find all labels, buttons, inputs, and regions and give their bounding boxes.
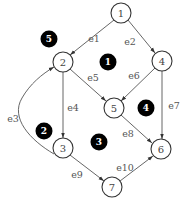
edge-label-e1: e1 xyxy=(88,33,100,44)
face-marker-1: 1 xyxy=(100,54,117,71)
node-6: 6 xyxy=(151,139,171,159)
edge-label-e2: e2 xyxy=(124,36,136,47)
node-label: 7 xyxy=(109,182,115,193)
edge-label-e8: e8 xyxy=(122,128,134,139)
edge-label-e10: e10 xyxy=(116,162,134,173)
face-label: 1 xyxy=(105,57,111,67)
edge-label-e6: e6 xyxy=(128,70,140,81)
node-label: 3 xyxy=(60,143,66,154)
edge-label-e5: e5 xyxy=(87,72,99,83)
edge-label-e4: e4 xyxy=(67,102,79,113)
face-label: 4 xyxy=(143,103,149,113)
node-1: 1 xyxy=(111,3,131,23)
face-label: 2 xyxy=(41,126,47,136)
node-4: 4 xyxy=(152,51,172,71)
node-label: 4 xyxy=(159,56,165,67)
node-3: 3 xyxy=(53,138,73,158)
faces: 1 2 3 4 5 xyxy=(36,31,155,151)
face-marker-5: 5 xyxy=(41,31,58,48)
face-marker-2: 2 xyxy=(36,123,53,140)
face-label: 3 xyxy=(96,137,102,147)
face-marker-4: 4 xyxy=(138,100,155,117)
node-2: 2 xyxy=(53,52,73,72)
node-label: 2 xyxy=(60,57,66,68)
edge-label-e9: e9 xyxy=(71,169,83,180)
node-label: 5 xyxy=(111,103,117,114)
node-7: 7 xyxy=(102,177,122,197)
node-5: 5 xyxy=(104,98,124,118)
edge-label-e7: e7 xyxy=(168,100,180,111)
edge-e3 xyxy=(18,67,54,154)
edges xyxy=(18,20,162,181)
edge-label-e3: e3 xyxy=(7,113,19,124)
face-marker-3: 3 xyxy=(91,134,108,151)
node-label: 1 xyxy=(118,8,124,19)
face-label: 5 xyxy=(46,34,52,44)
graph-diagram: e1 e2 e3 e4 e5 e6 e7 e8 e9 e10 1 2 3 4 5 xyxy=(0,0,182,208)
node-label: 6 xyxy=(158,144,164,155)
